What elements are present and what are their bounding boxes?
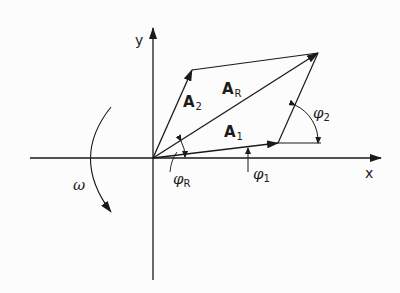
- vector-a1-label: A1: [224, 125, 243, 142]
- phir-label: φR: [173, 172, 190, 189]
- vector-a2-arrow: [153, 70, 192, 158]
- parallelogram-side-right: [278, 53, 318, 143]
- parallelogram-side-top: [192, 53, 318, 70]
- vector-a2-label: A2: [183, 95, 202, 112]
- x-axis-label: x: [365, 166, 373, 180]
- phi2-label: φ2: [313, 106, 330, 123]
- vector-ar-label: AR: [222, 82, 242, 99]
- omega-label: ω: [73, 178, 85, 193]
- phasor-diagram: y x A2 AR A1 φ2 φR φ1 ω: [0, 0, 400, 293]
- rotation-arc: [91, 107, 112, 212]
- y-axis-label: y: [135, 33, 143, 47]
- vector-ar-arrow: [153, 53, 318, 158]
- vector-a1-arrow: [153, 143, 278, 158]
- phi1-label: φ1: [253, 167, 270, 184]
- diagram-canvas: [0, 0, 400, 293]
